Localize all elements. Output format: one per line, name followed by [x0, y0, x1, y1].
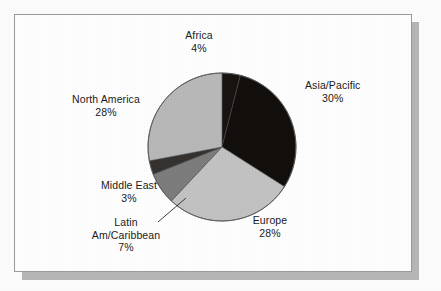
label-north-america-name: North America — [72, 93, 140, 105]
label-africa-name: Africa — [185, 29, 212, 41]
label-middle-east-percent: 3% — [87, 192, 171, 205]
label-africa: Africa 4% — [166, 29, 232, 54]
label-middle-east-name: Middle East — [101, 179, 157, 191]
label-europe: Europe 28% — [232, 214, 308, 239]
label-europe-name: Europe — [253, 214, 287, 226]
label-north-america-percent: 28% — [59, 106, 153, 119]
label-north-america: North America 28% — [59, 93, 153, 118]
label-africa-percent: 4% — [166, 42, 232, 55]
label-europe-percent: 28% — [232, 227, 308, 240]
label-asia-pacific: Asia/Pacific 30% — [305, 79, 360, 104]
pie-slice-north-america[interactable] — [148, 73, 222, 161]
screenshot-canvas: Africa 4% Asia/Pacific 30% Europe 28% La… — [0, 0, 441, 291]
label-asia-pacific-percent: 30% — [305, 92, 360, 105]
label-latin-percent: 7% — [85, 241, 167, 254]
label-latin-am-caribbean: Latin Am/Caribbean 7% — [85, 216, 167, 254]
label-asia-pacific-name: Asia/Pacific — [305, 79, 360, 91]
label-middle-east: Middle East 3% — [87, 179, 171, 204]
label-latin-line2: Am/Caribbean — [85, 229, 167, 242]
label-latin-line1: Latin — [114, 216, 137, 228]
